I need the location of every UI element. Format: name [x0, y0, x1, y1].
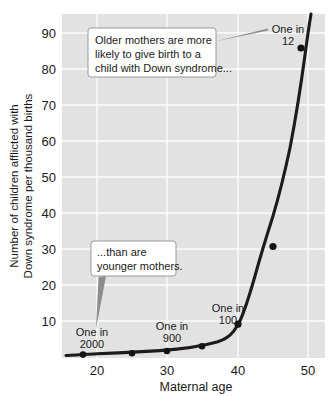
callout-older-mothers: Older mothers are more likely to give bi… — [88, 28, 232, 77]
y-tick-label-10: 10 — [42, 314, 56, 329]
data-point-age-49 — [297, 44, 304, 51]
callout-older-mothers-line3: child with Down syndrome... — [95, 62, 232, 74]
data-point-age-30 — [164, 348, 171, 355]
y-tick-label-70: 70 — [42, 98, 56, 113]
point-label-one-in-100-line1: One in — [212, 302, 244, 314]
data-point-age-35 — [199, 343, 206, 350]
y-tick-label-40: 40 — [42, 206, 56, 221]
callout-older-mothers-line2: likely to give birth to a — [95, 48, 202, 60]
y-tick-label-50: 50 — [42, 170, 56, 185]
down-syndrome-maternal-age-chart: 90 80 70 60 50 40 30 20 10 20 30 40 50 M… — [0, 0, 333, 396]
callout-younger-mothers-line1: ...than are — [97, 246, 147, 258]
callout-younger-mothers-line2: younger mothers. — [97, 260, 183, 272]
x-tick-label-20: 20 — [90, 363, 104, 378]
y-tick-label-80: 80 — [42, 62, 56, 77]
x-axis-title: Maternal age — [160, 380, 233, 394]
point-label-one-in-2000: One in 2000 — [76, 326, 108, 350]
point-label-one-in-900-line1: One in — [156, 320, 188, 332]
data-point-age-45 — [269, 243, 276, 250]
point-label-one-in-2000-line2: 2000 — [80, 338, 104, 350]
y-axis-tick-labels: 90 80 70 60 50 40 30 20 10 — [42, 26, 56, 329]
point-label-one-in-12-line2: 12 — [282, 35, 294, 47]
x-tick-label-30: 30 — [160, 363, 174, 378]
point-label-one-in-2000-line1: One in — [76, 326, 108, 338]
point-label-one-in-12-line1: One in — [272, 23, 304, 35]
y-tick-label-60: 60 — [42, 134, 56, 149]
y-tick-label-30: 30 — [42, 242, 56, 257]
point-label-one-in-900-line2: 900 — [163, 332, 181, 344]
data-point-age-18 — [80, 351, 87, 358]
y-axis-title-line2: Down syndrome per thousand births — [22, 93, 34, 278]
data-point-age-25 — [129, 350, 136, 357]
y-axis-title-line1: Number of children afflicted with — [8, 104, 20, 267]
y-tick-label-90: 90 — [42, 26, 56, 41]
callout-older-mothers-line1: Older mothers are more — [95, 34, 212, 46]
callout-younger-mothers: ...than are younger mothers. — [91, 241, 183, 276]
point-label-one-in-100-line2: 100 — [219, 314, 237, 326]
x-tick-label-40: 40 — [231, 363, 245, 378]
x-tick-label-50: 50 — [301, 363, 315, 378]
y-tick-label-20: 20 — [42, 278, 56, 293]
